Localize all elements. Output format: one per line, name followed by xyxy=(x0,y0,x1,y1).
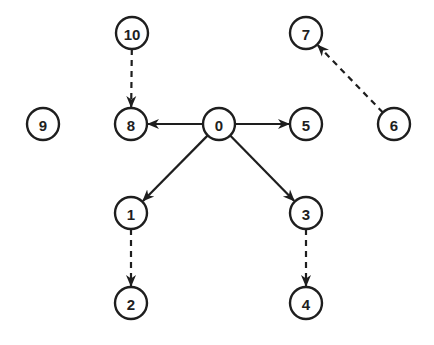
node-9: 9 xyxy=(27,108,59,140)
node-1: 1 xyxy=(115,197,147,229)
node-8: 8 xyxy=(115,108,147,140)
node-label: 8 xyxy=(127,117,135,134)
node-6: 6 xyxy=(378,108,410,140)
node-label: 9 xyxy=(39,117,47,134)
edge-0-to-3 xyxy=(230,135,294,200)
graph-canvas: 012345678910 xyxy=(0,0,434,345)
node-label: 2 xyxy=(127,296,135,313)
node-label: 7 xyxy=(302,26,310,43)
nodes-layer: 012345678910 xyxy=(27,17,410,319)
edge-10-to-8 xyxy=(131,49,132,107)
node-label: 3 xyxy=(302,206,310,223)
node-label: 5 xyxy=(302,117,310,134)
graph-diagram: 012345678910 xyxy=(0,0,434,345)
node-7: 7 xyxy=(290,17,322,49)
edges-layer xyxy=(131,45,383,286)
node-label: 4 xyxy=(302,296,311,313)
node-5: 5 xyxy=(290,108,322,140)
node-label: 6 xyxy=(390,117,398,134)
node-3: 3 xyxy=(290,197,322,229)
edge-6-to-7 xyxy=(318,45,383,112)
node-label: 0 xyxy=(215,117,223,134)
node-label: 10 xyxy=(124,26,141,43)
node-10: 10 xyxy=(116,17,148,49)
edge-0-to-1 xyxy=(143,135,208,201)
node-2: 2 xyxy=(115,287,147,319)
node-0: 0 xyxy=(203,108,235,140)
node-4: 4 xyxy=(290,287,322,319)
node-label: 1 xyxy=(127,206,135,223)
